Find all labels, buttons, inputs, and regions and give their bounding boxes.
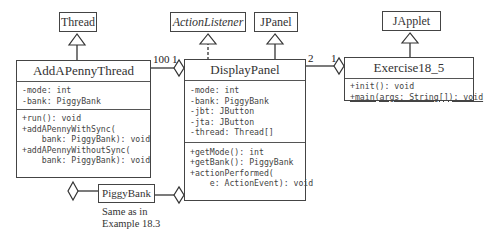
japplet-superclass-box: JApplet	[382, 11, 441, 31]
attribute: -thread: Thread[]	[190, 127, 300, 138]
static-method: +main(args: String[]): void	[350, 92, 468, 103]
attributes-section: -mode: int -bank: PiggyBank -jbt: JButto…	[185, 81, 305, 143]
attributes-section: -mode: int -bank: PiggyBank	[17, 82, 150, 110]
methods-section: +init(): void +main(args: String[]): voi…	[345, 79, 473, 105]
attribute: -jta: JButton	[190, 117, 300, 128]
piggy-bank-class: PiggyBank	[98, 184, 155, 203]
attribute: -bank: PiggyBank	[22, 96, 145, 107]
attribute: -bank: PiggyBank	[190, 96, 300, 107]
aggregation-diamond-icon	[174, 187, 184, 203]
thread-superclass-label: Thread	[61, 15, 95, 29]
method: bank: PiggyBank): void	[22, 134, 145, 145]
generalization-arrow-icon	[69, 34, 85, 45]
class-name: DisplayPanel	[185, 60, 305, 81]
method: +getMode(): int	[190, 147, 300, 158]
display-panel-class: DisplayPanel -mode: int -bank: PiggyBank…	[184, 59, 306, 201]
class-name: PiggyBank	[102, 187, 151, 199]
method: +addAPennyWithoutSync(	[22, 145, 145, 156]
methods-section: +run(): void +addAPennyWithSync( bank: P…	[17, 110, 150, 169]
class-name: AddAPennyThread	[17, 61, 150, 82]
add-a-penny-thread-class: AddAPennyThread -mode: int -bank: PiggyB…	[16, 60, 151, 178]
generalization-arrow-icon	[267, 34, 283, 44]
jpanel-label: JPanel	[260, 15, 291, 29]
piggy-bank-note: Same as in Example 18.3	[102, 206, 160, 230]
class-name: Exercise18_5	[345, 58, 473, 79]
multiplicity-label: 2	[308, 52, 314, 64]
multiplicity-label: 100	[153, 53, 170, 65]
method: +getBank(): PiggyBank	[190, 157, 300, 168]
method: bank: PiggyBank): void	[22, 155, 145, 166]
method: e: ActionEvent): void	[190, 178, 300, 189]
note-line: Example 18.3	[102, 218, 160, 230]
method: +run(): void	[22, 113, 145, 124]
attribute: -jbt: JButton	[190, 106, 300, 117]
realization-arrow-icon	[200, 34, 216, 44]
action-listener-label: ActionListener	[173, 15, 244, 29]
aggregation-diamond-icon	[68, 182, 78, 200]
method: +actionPerformed(	[190, 168, 300, 179]
multiplicity-label: 1	[172, 53, 178, 65]
action-listener-interface-box: ActionListener	[170, 12, 246, 32]
exercise18-5-class: Exercise18_5 +init(): void +main(args: S…	[344, 57, 474, 101]
jpanel-superclass-box: JPanel	[254, 12, 298, 32]
methods-section: +getMode(): int +getBank(): PiggyBank +a…	[185, 143, 305, 192]
method: +init(): void	[350, 81, 468, 92]
multiplicity-label: 1	[331, 52, 337, 64]
method: +addAPennyWithSync(	[22, 124, 145, 135]
attribute: -mode: int	[190, 85, 300, 96]
japplet-label: JApplet	[393, 14, 430, 28]
note-line: Same as in	[102, 206, 160, 218]
thread-superclass-box: Thread	[59, 12, 97, 32]
generalization-arrow-icon	[402, 33, 418, 43]
attribute: -mode: int	[22, 85, 145, 96]
